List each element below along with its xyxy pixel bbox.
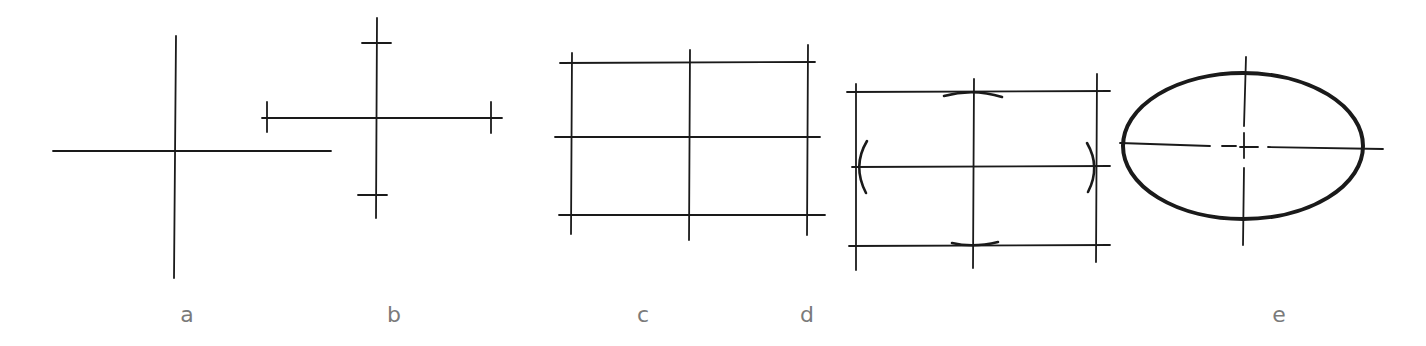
panel-label-d: d bbox=[800, 302, 814, 327]
panel-c-grid bbox=[555, 45, 825, 240]
diagram-canvas bbox=[0, 0, 1426, 346]
panel-label-c: c bbox=[637, 302, 649, 327]
panel-label-e: e bbox=[1272, 302, 1286, 327]
panel-label-b: b bbox=[387, 302, 401, 327]
panel-d-grid-with-arcs bbox=[847, 74, 1110, 270]
panel-label-a: a bbox=[180, 302, 193, 327]
panel-e-ellipse bbox=[1120, 57, 1383, 245]
panel-b-axes-with-ticks bbox=[262, 18, 502, 218]
panel-a-axes bbox=[53, 36, 331, 278]
